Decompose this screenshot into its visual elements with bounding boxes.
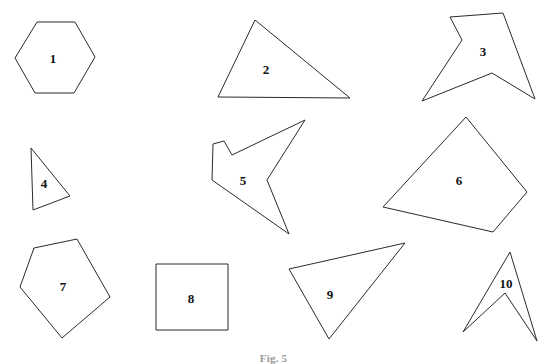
- shape-group-2: 2: [218, 20, 350, 98]
- shape-label-2: 2: [263, 62, 270, 77]
- shape-label-4: 4: [41, 176, 48, 191]
- shape-label-5: 5: [240, 173, 247, 188]
- figure-caption: Fig. 5: [0, 352, 547, 364]
- shape-triangle: [218, 20, 350, 98]
- shape-group-10: 10: [463, 252, 537, 341]
- shape-label-8: 8: [188, 291, 195, 306]
- shape-label-3: 3: [480, 44, 487, 59]
- shape-arrow-concave: [212, 120, 305, 234]
- shape-triangle-obtuse: [289, 243, 405, 339]
- shapes-canvas: 1 2 3 4 5 6 7 8: [0, 0, 547, 364]
- shape-group-4: 4: [31, 148, 70, 210]
- polygon-figure: 1 2 3 4 5 6 7 8: [0, 0, 547, 364]
- shape-triangle-small: [31, 148, 70, 210]
- shape-label-6: 6: [456, 173, 463, 188]
- shape-group-9: 9: [289, 243, 405, 339]
- shape-label-9: 9: [327, 287, 334, 302]
- shape-label-1: 1: [50, 51, 57, 66]
- shape-group-5: 5: [212, 120, 305, 234]
- shape-label-10: 10: [500, 276, 513, 291]
- shape-group-6: 6: [383, 117, 527, 232]
- shape-group-7: 7: [20, 239, 110, 338]
- shape-group-1: 1: [15, 22, 95, 93]
- shape-group-3: 3: [422, 13, 535, 101]
- shape-label-7: 7: [60, 279, 67, 294]
- shape-group-8: 8: [156, 264, 228, 330]
- shape-arrow-star: [422, 13, 535, 101]
- shape-dart: [463, 252, 537, 341]
